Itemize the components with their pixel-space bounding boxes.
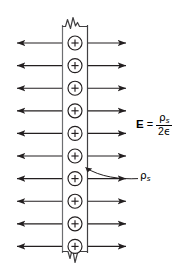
rho-glyph: ρ [159, 111, 166, 123]
charge-density-label: ρs [140, 169, 150, 183]
rho-s-leader-line [86, 168, 139, 179]
positive-charge [68, 217, 82, 231]
positive-charge [68, 81, 82, 95]
field-equation: E = ρs 2ϵ [136, 112, 172, 137]
rho-subscript: s [166, 116, 170, 125]
positive-charge [68, 126, 82, 140]
positive-charge [68, 172, 82, 186]
rho-glyph: ρ [140, 169, 147, 181]
equation-numerator: ρs [157, 112, 171, 125]
diagram-canvas [0, 0, 182, 277]
equation-fraction: ρs 2ϵ [156, 112, 172, 137]
positive-charge [68, 59, 82, 73]
positive-charge [68, 149, 82, 163]
slab-field-diagram: E = ρs 2ϵ ρs [0, 0, 182, 277]
equation-denominator: 2ϵ [156, 126, 172, 137]
positive-charge [68, 36, 82, 50]
positive-charge [68, 194, 82, 208]
equation-equals-sign: = [147, 118, 153, 130]
rho-subscript: s [147, 174, 151, 183]
positive-charge [68, 104, 82, 118]
equation-lhs: E [136, 118, 144, 130]
epsilon-glyph: ϵ [164, 125, 170, 137]
positive-charge [68, 239, 82, 253]
